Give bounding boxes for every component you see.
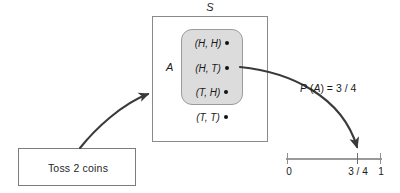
probability-value: 3 / 4 (336, 82, 356, 94)
arrow-experiment-to-sample-space (80, 94, 148, 148)
probability-function-symbol: P (300, 82, 307, 94)
number-line-tick-3-4 (357, 153, 358, 164)
arrow-layer (0, 0, 400, 193)
arrow-event-to-probability-value (240, 67, 357, 147)
number-line-tick-1 (380, 153, 381, 164)
probability-equals: = (324, 82, 336, 94)
probability-diagram: S A (H, H) (H, T) (T, H) (T, T) Toss 2 c… (0, 0, 400, 193)
number-line (286, 158, 382, 160)
number-line-label-3-4: 3 / 4 (348, 166, 367, 177)
number-line-label-1: 1 (378, 166, 384, 177)
number-line-tick-0 (287, 153, 288, 164)
probability-expression: P (A) = 3 / 4 (300, 82, 356, 94)
number-line-label-0: 0 (286, 166, 292, 177)
